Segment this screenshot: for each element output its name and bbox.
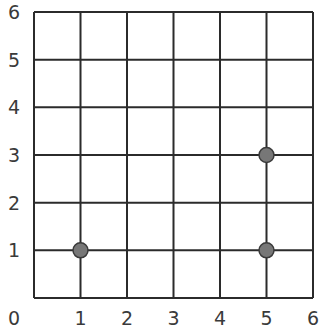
x-tick-label: 2 xyxy=(121,307,133,329)
coordinate-grid-chart: 0123456 123456 xyxy=(0,0,319,330)
x-tick-label: 4 xyxy=(214,307,226,329)
data-point xyxy=(259,148,274,163)
y-axis-tick-labels: 123456 xyxy=(8,1,20,261)
x-tick-label: 0 xyxy=(8,307,20,329)
data-point xyxy=(73,243,88,258)
y-tick-label: 1 xyxy=(8,239,20,261)
y-tick-label: 5 xyxy=(8,49,20,71)
x-tick-label: 1 xyxy=(74,307,86,329)
x-tick-label: 3 xyxy=(167,307,179,329)
y-tick-label: 3 xyxy=(8,144,20,166)
y-tick-label: 4 xyxy=(8,96,20,118)
y-tick-label: 6 xyxy=(8,1,20,23)
x-tick-label: 5 xyxy=(260,307,272,329)
x-tick-label: 6 xyxy=(307,307,319,329)
data-point xyxy=(259,243,274,258)
x-axis-tick-labels: 0123456 xyxy=(8,307,319,329)
y-tick-label: 2 xyxy=(8,192,20,214)
